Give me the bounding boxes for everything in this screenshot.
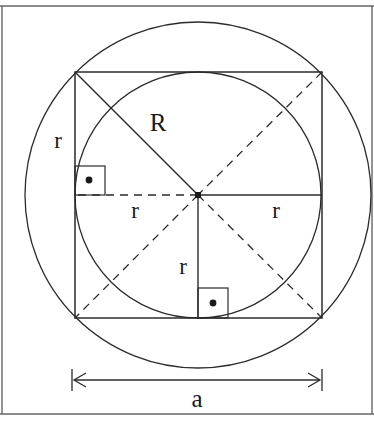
diagonal-dashed-top-right <box>198 72 322 195</box>
center-point-marker <box>195 192 201 198</box>
diagonal-solid-top-left <box>75 72 198 195</box>
figure-canvas <box>0 0 374 421</box>
label-inradius-left: r <box>54 129 62 152</box>
right-angle-marker-left <box>75 166 105 195</box>
label-inradius-midleft: r <box>131 199 139 222</box>
right-angle-marker-bottom <box>198 288 228 318</box>
diagonal-dashed-bottom-right <box>198 195 322 318</box>
label-inradius-midright: r <box>272 199 280 222</box>
label-inradius-down: r <box>179 255 187 278</box>
label-circumradius: R <box>150 110 167 135</box>
label-side-a: a <box>191 386 202 411</box>
geometry-figure: r R r r r a <box>0 0 374 421</box>
